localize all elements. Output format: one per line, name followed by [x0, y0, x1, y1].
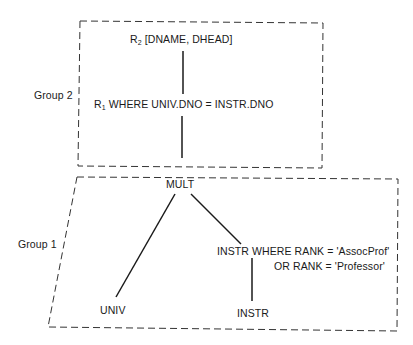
r1-subscript: 1 — [102, 104, 106, 111]
r2-text: [DNAME, DHEAD] — [145, 33, 233, 45]
node-select-line2: OR RANK = 'Professor' — [274, 260, 385, 272]
node-r1-join-condition: R1 WHERE UNIV.DNO = INSTR.DNO — [94, 98, 273, 111]
r2-subscript: 2 — [138, 39, 142, 46]
node-select-line1: INSTR WHERE RANK = 'AssocProf' — [217, 245, 389, 257]
edge-mult-univ — [116, 194, 175, 297]
group-2-label: Group 2 — [34, 89, 73, 101]
edge-mult-select — [191, 194, 241, 244]
group-1-label: Group 1 — [18, 238, 57, 250]
node-instr: INSTR — [237, 307, 269, 319]
r1-base: R — [94, 98, 102, 110]
node-univ: UNIV — [100, 304, 126, 316]
node-mult: MULT — [166, 178, 194, 190]
node-r2-projection: R2 [DNAME, DHEAD] — [130, 33, 232, 46]
r2-base: R — [130, 33, 138, 45]
r1-text: WHERE UNIV.DNO = INSTR.DNO — [109, 98, 274, 110]
diagram-lines — [0, 0, 413, 345]
